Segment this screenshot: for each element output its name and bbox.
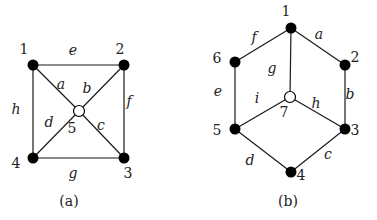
node-1 (286, 23, 297, 34)
edge-label-g: g (268, 60, 277, 76)
caption: (b) (278, 193, 298, 209)
edge-label-a: a (57, 76, 65, 92)
edge-label-d: d (45, 114, 54, 130)
node-label-2: 2 (116, 41, 125, 57)
edge-label-c: c (97, 117, 105, 133)
node-label-4: 4 (297, 167, 306, 183)
node-label-6: 6 (213, 50, 222, 66)
edge-label-g: g (69, 165, 78, 181)
node-4 (286, 167, 297, 178)
node-7 (285, 92, 296, 103)
node-1 (28, 60, 39, 71)
edge-label-b: b (83, 80, 92, 96)
edge-label-h: h (311, 95, 320, 111)
edge-label-f: f (250, 29, 259, 45)
node-5 (74, 106, 85, 117)
edge-label-a: a (315, 26, 323, 42)
edge-label-e: e (214, 83, 222, 99)
caption: (a) (59, 193, 78, 209)
edge-label-d: d (246, 152, 255, 168)
graph-b: abcdefghi1234567(b) (213, 3, 360, 209)
node-4 (28, 153, 39, 164)
edge-g (290, 28, 291, 97)
node-label-7: 7 (280, 104, 289, 120)
graph-diagram-canvas: efghabcd12345(a) abcdefghi1234567(b) (0, 0, 377, 220)
edge-label-c: c (324, 146, 332, 162)
graph-a: efghabcd12345(a) (11, 41, 134, 209)
node-label-5: 5 (68, 120, 77, 136)
node-3 (119, 153, 130, 164)
edge-f (235, 28, 291, 62)
node-label-1: 1 (282, 3, 291, 19)
node-6 (230, 57, 241, 68)
node-label-3: 3 (124, 165, 133, 181)
edge-label-i: i (255, 90, 259, 106)
node-label-4: 4 (12, 155, 21, 171)
edge-c (291, 129, 345, 172)
node-2 (340, 60, 351, 71)
edge-label-h: h (11, 101, 20, 117)
edge-label-f: f (125, 93, 134, 109)
node-5 (230, 124, 241, 135)
node-label-5: 5 (213, 122, 222, 138)
node-2 (119, 60, 130, 71)
node-label-2: 2 (351, 49, 360, 65)
node-label-1: 1 (20, 41, 29, 57)
node-label-3: 3 (351, 122, 360, 138)
edge-label-e: e (69, 42, 77, 58)
edge-label-b: b (346, 86, 355, 102)
edge-d (235, 129, 291, 172)
node-3 (340, 124, 351, 135)
